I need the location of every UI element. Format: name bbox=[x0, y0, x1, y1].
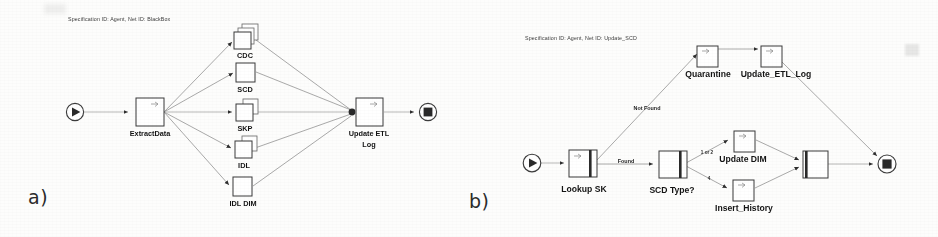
scan-smudge-top-left bbox=[44, 4, 66, 14]
node-quarantine[interactable]: Quarantine bbox=[685, 46, 731, 79]
task-node-icon bbox=[136, 98, 164, 126]
node-update-dim[interactable]: Update DIM bbox=[719, 131, 766, 164]
subnet-bar-glyph bbox=[679, 151, 682, 178]
start-node-b[interactable] bbox=[523, 154, 541, 172]
task-node-icon bbox=[734, 131, 755, 152]
scan-smudge-right bbox=[905, 44, 919, 56]
edge-cdc-update bbox=[256, 40, 351, 110]
edge-idldim-update bbox=[253, 116, 351, 186]
stacked-task-icon bbox=[235, 141, 252, 158]
task-node-icon bbox=[233, 177, 252, 196]
edge-extract-scd bbox=[164, 73, 233, 112]
node-idl-dim[interactable]: IDL DIM bbox=[229, 177, 256, 208]
node-label-idl: IDL bbox=[238, 161, 250, 170]
merge-bar-glyph bbox=[805, 151, 808, 178]
node-label-skp: SKP bbox=[237, 124, 252, 133]
stop-square-icon bbox=[882, 159, 891, 168]
stacked-task-icon bbox=[234, 32, 251, 49]
node-label-quarantine: Quarantine bbox=[685, 69, 731, 79]
task-node-icon bbox=[356, 98, 383, 126]
subnet-task-icon bbox=[569, 150, 597, 177]
node-extract-data[interactable]: ExtractData bbox=[130, 98, 171, 138]
edge-extract-cdc bbox=[164, 42, 232, 112]
subnet-bar-glyph bbox=[589, 150, 592, 177]
node-scd[interactable]: SCD bbox=[236, 63, 255, 94]
node-scd-type[interactable]: SCD Type? bbox=[649, 151, 694, 195]
node-label-update-dim: Update DIM bbox=[719, 154, 766, 164]
edge-label-four: 4 bbox=[708, 176, 711, 181]
node-label-extract-data: ExtractData bbox=[130, 129, 171, 138]
edge-label-found: Found bbox=[618, 158, 634, 164]
start-node-a[interactable] bbox=[66, 103, 128, 120]
node-skp[interactable]: SKP bbox=[236, 99, 258, 133]
spec-label-b: Specification ID: Agent, Net ID: Update_… bbox=[525, 35, 637, 41]
panel-caption-b: b) bbox=[469, 190, 489, 212]
node-label-idl-dim: IDL DIM bbox=[229, 199, 256, 208]
edge-label-not-found: Not Found bbox=[634, 105, 661, 111]
task-node-icon bbox=[761, 46, 782, 67]
task-node-icon bbox=[733, 180, 754, 201]
node-label-insert-history: Insert_History bbox=[715, 203, 773, 213]
edge-scd-update bbox=[256, 72, 351, 110]
stacked-task-icon bbox=[236, 104, 253, 121]
edge-extract-idl bbox=[164, 112, 231, 148]
node-idl[interactable]: IDL bbox=[235, 136, 257, 170]
edges-fanin-a bbox=[253, 40, 355, 186]
edge-extract-idldim bbox=[164, 112, 229, 185]
edge-label-one-or-two: 1 or 2 bbox=[701, 150, 714, 155]
panel-a-blackbox: Specification ID: Agent, Net ID: BlackBo… bbox=[0, 0, 469, 237]
node-label-scd-type: SCD Type? bbox=[649, 185, 694, 195]
stop-square-icon bbox=[424, 108, 433, 117]
node-update-etl-log-b[interactable]: Update_ETL_Log bbox=[741, 46, 812, 79]
node-label-cdc: CDC bbox=[237, 51, 254, 60]
panel-b-diagram: Specification ID: Agent, Net ID: Update_… bbox=[469, 0, 938, 237]
end-node-b[interactable] bbox=[878, 155, 896, 173]
node-label-update-etl-log-l2: Log bbox=[362, 140, 375, 149]
panel-caption-a: a) bbox=[28, 186, 48, 208]
node-label-lookup-sk: Lookup SK bbox=[561, 184, 607, 194]
task-node-icon bbox=[236, 63, 255, 82]
edge-inserthistory-merge bbox=[755, 167, 799, 188]
node-insert-history[interactable]: Insert_History bbox=[715, 180, 773, 213]
panel-a-diagram: Specification ID: Agent, Net ID: BlackBo… bbox=[0, 0, 469, 237]
task-node-icon bbox=[697, 46, 718, 67]
spec-label-a: Specification ID: Agent, Net ID: BlackBo… bbox=[68, 16, 171, 22]
figure-root: Specification ID: Agent, Net ID: BlackBo… bbox=[0, 0, 938, 237]
node-update-etl-log-a[interactable]: Update ETL Log bbox=[349, 98, 390, 149]
join-dot-a bbox=[349, 109, 356, 116]
node-cdc[interactable]: CDC bbox=[234, 24, 258, 60]
node-merge[interactable] bbox=[803, 151, 828, 178]
subnet-task-icon bbox=[659, 151, 687, 178]
edges-fanout-a bbox=[164, 42, 233, 185]
end-node-a[interactable] bbox=[383, 103, 437, 120]
node-label-update-etl-log-l1: Update ETL bbox=[349, 129, 390, 138]
panel-b-update-scd: Specification ID: Agent, Net ID: Update_… bbox=[469, 0, 938, 237]
edge-idl-update bbox=[255, 114, 351, 148]
node-label-scd: SCD bbox=[237, 85, 252, 94]
node-label-update-etl-log-b: Update_ETL_Log bbox=[741, 69, 812, 79]
